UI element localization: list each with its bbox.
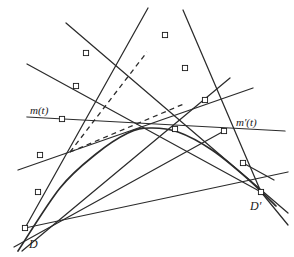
intersection-node bbox=[35, 189, 40, 194]
tangent-line bbox=[261, 192, 288, 225]
tangent-line bbox=[183, 10, 261, 192]
intersection-node bbox=[73, 83, 78, 88]
tangent-line bbox=[18, 88, 253, 170]
intersection-node bbox=[240, 160, 245, 165]
intersection-node bbox=[22, 225, 27, 230]
label-point-D: D bbox=[29, 238, 38, 250]
intersection-node bbox=[59, 116, 64, 121]
intersection-node bbox=[221, 128, 226, 133]
label-m-of-t: m(t) bbox=[30, 105, 48, 116]
intersection-node bbox=[182, 65, 187, 70]
intersection-node bbox=[172, 126, 177, 131]
intersection-node bbox=[83, 50, 88, 55]
intersection-node bbox=[37, 152, 42, 157]
tangent-line bbox=[14, 131, 224, 247]
intersection-node bbox=[162, 32, 167, 37]
intersection-node bbox=[202, 97, 207, 102]
intersection-node bbox=[258, 189, 263, 194]
label-point-D-prime: D′ bbox=[250, 200, 261, 212]
dashed-construction-line bbox=[70, 52, 147, 152]
figure-canvas bbox=[0, 0, 294, 257]
tangent-line bbox=[22, 78, 230, 251]
label-m-prime-of-t: m′(t) bbox=[236, 117, 257, 128]
geometry-figure: m(t) m′(t) D D′ bbox=[0, 0, 294, 257]
intersection-nodes bbox=[22, 32, 263, 230]
tangent-line bbox=[243, 163, 274, 180]
dashed-construction-lines bbox=[70, 52, 186, 152]
solid-tangent-lines bbox=[14, 8, 288, 251]
